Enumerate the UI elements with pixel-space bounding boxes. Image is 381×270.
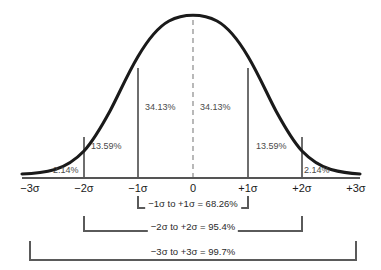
region-label-left-inner: 34.13% [145,102,176,112]
bell-curve-path [22,15,360,174]
axis-tick-plus-3-sigma: +3σ [346,182,365,194]
axis-tick-zero: 0 [190,182,196,194]
region-label-left-mid: 13.59% [91,141,122,151]
normal-distribution-figure: 2.14% 13.59% 34.13% 34.13% 13.59% 2.14% … [0,0,381,270]
axis-tick-minus-3-sigma: −3σ [20,182,39,194]
axis-tick-plus-2-sigma: +2σ [292,182,311,194]
region-label-left-tail: 2.14% [53,165,79,175]
axis-tick-plus-1-sigma: +1σ [238,182,257,194]
bracket-label-one-sigma: −1σ to +1σ = 68.26% [145,198,241,209]
region-label-right-inner: 34.13% [200,102,231,112]
region-label-right-mid: 13.59% [256,141,287,151]
axis-tick-minus-2-sigma: −2σ [74,182,93,194]
region-label-right-tail: 2.14% [304,165,330,175]
bracket-label-three-sigma: −3σ to +3σ = 99.7% [148,246,238,257]
axis-tick-minus-1-sigma: −1σ [128,182,147,194]
bracket-label-two-sigma: −2σ to +2σ = 95.4% [148,221,238,232]
